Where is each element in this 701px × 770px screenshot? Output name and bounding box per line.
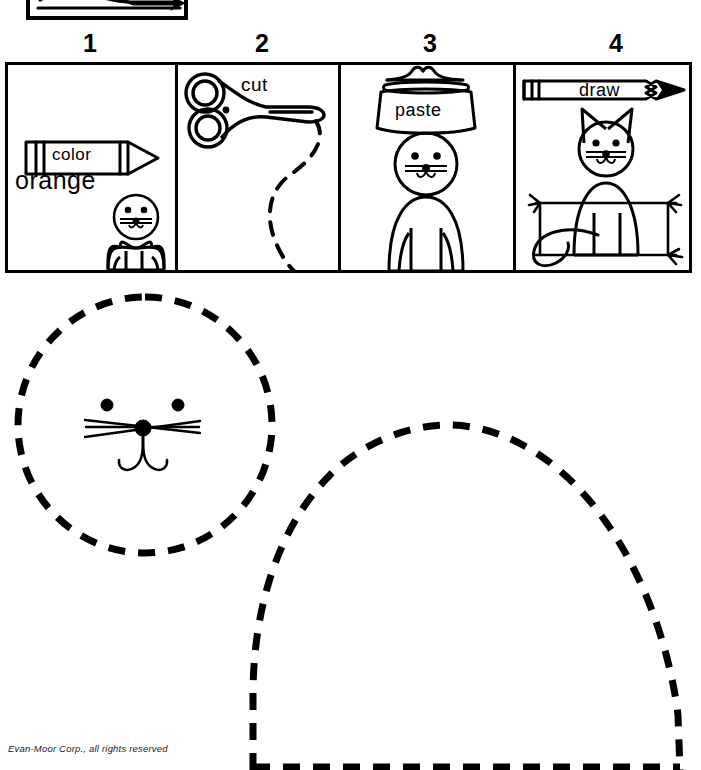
step-3-illustration xyxy=(341,65,516,270)
step-number-4: 4 xyxy=(586,29,646,57)
scissors-pivot-icon xyxy=(223,107,230,114)
step-panel-1: color orange xyxy=(8,65,178,270)
cat-head-small-icon xyxy=(114,195,158,239)
dashed-cut-line xyxy=(270,121,320,270)
cat-head-drawn-icon xyxy=(579,122,633,176)
top-panel-fragment xyxy=(26,0,188,20)
cat-face-pasted xyxy=(405,153,447,177)
cat-face-cutout xyxy=(85,399,200,470)
instruction-panel-strip: color orange cut xyxy=(5,62,692,273)
cat-face-small xyxy=(120,208,152,228)
step-number-3: 3 xyxy=(400,29,460,57)
pencil-tip-icon xyxy=(656,81,684,99)
cat-body-small-icon xyxy=(108,242,164,270)
cat-mouth-right-icon xyxy=(143,435,167,470)
step-panel-2: cut xyxy=(178,65,341,270)
cat-nose-icon xyxy=(135,420,151,436)
scissors-label-cut: cut xyxy=(241,74,268,96)
cat-body-drawn-icon xyxy=(574,183,638,255)
paste-jar-label-paste: paste xyxy=(395,100,442,121)
cat-body-pasted-icon xyxy=(389,197,463,270)
footer-copyright: Evan-Moor Corp., all rights reserved xyxy=(8,743,168,754)
cat-eye-right-icon xyxy=(172,399,184,411)
step-number-1: 1 xyxy=(60,29,120,57)
step-number-2: 2 xyxy=(232,29,292,57)
crayon-label-color: color xyxy=(52,145,91,165)
pencil-label-draw: draw xyxy=(579,80,620,101)
cat-body-cutout xyxy=(253,425,680,770)
partial-panel-fragment xyxy=(30,0,188,20)
cutout-area xyxy=(0,275,701,770)
cat-face-drawn xyxy=(586,140,626,163)
step-number-row: 1 2 3 4 xyxy=(0,29,701,57)
cat-eye-left-icon xyxy=(101,399,113,411)
cat-mouth-left-icon xyxy=(119,435,143,470)
cat-tail-icon xyxy=(534,230,598,266)
color-word-orange: orange xyxy=(15,166,96,195)
step-panel-4: draw xyxy=(516,65,689,270)
step-panel-3: paste xyxy=(341,65,516,270)
